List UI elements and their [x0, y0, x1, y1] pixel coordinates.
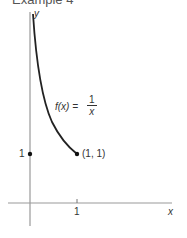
- function-fraction: 1 x: [87, 94, 97, 117]
- point-label: (1, 1): [82, 148, 105, 159]
- x-axis-label: x: [168, 206, 173, 217]
- curve-1-over-x: [33, 14, 77, 154]
- point-1-1: [75, 152, 79, 156]
- x-tick-label: 1: [74, 206, 80, 217]
- graph-canvas: [0, 0, 187, 238]
- fraction-numerator: 1: [87, 94, 97, 106]
- fraction-denominator: x: [87, 106, 97, 117]
- y-axis-label: y: [34, 8, 39, 19]
- function-lhs: f(x) =: [55, 101, 78, 112]
- y-tick-label: 1: [19, 148, 25, 159]
- y-tick-point: [28, 152, 32, 156]
